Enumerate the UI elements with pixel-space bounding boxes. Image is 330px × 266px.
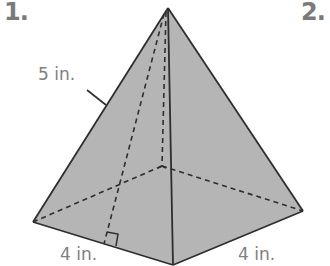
right-face	[168, 8, 303, 265]
label-leader-line	[87, 90, 106, 105]
base-right-label: 4 in.	[238, 244, 275, 264]
square-pyramid-diagram	[0, 0, 330, 266]
slant-height-label: 5 in.	[38, 64, 75, 84]
left-face	[33, 8, 173, 265]
base-left-label: 4 in.	[60, 244, 97, 264]
